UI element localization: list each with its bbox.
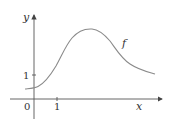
origin-label: 0 <box>24 101 30 112</box>
function-label-f: f <box>121 37 128 50</box>
function-graph: y x 0 1 1 f <box>0 0 170 127</box>
x-tick-label-1: 1 <box>54 101 60 112</box>
y-tick-label-1: 1 <box>23 70 29 81</box>
y-axis-label: y <box>22 11 30 24</box>
x-axis-label: x <box>136 100 143 113</box>
function-curve-f <box>25 29 155 89</box>
